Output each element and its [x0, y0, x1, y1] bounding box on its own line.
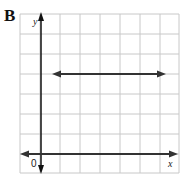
origin-label: 0 — [31, 158, 37, 169]
grid — [20, 14, 179, 173]
x-axis — [20, 151, 178, 158]
coordinate-plane: y x 0 — [0, 0, 183, 176]
x-axis-label: x — [167, 158, 173, 169]
y-axis-label: y — [32, 16, 38, 27]
horizontal-line — [52, 71, 166, 78]
y-axis — [38, 12, 44, 174]
